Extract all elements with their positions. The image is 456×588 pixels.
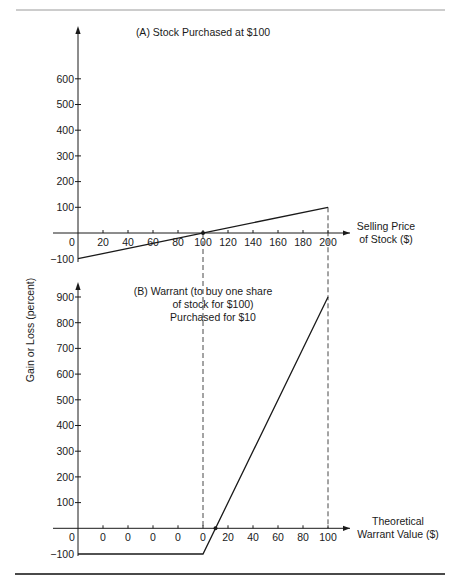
panel-b-x-axis-label-line: Warrant Value ($): [357, 528, 439, 540]
panel-b-y-tick-label: 900: [56, 291, 74, 303]
panel-a-x-axis-label-line: Selling Price: [357, 220, 416, 232]
panel-b-x-tick-label: 20: [222, 531, 234, 543]
panel-a: (A) Stock Purchased at $100 Selling Pric…: [50, 26, 415, 528]
panel-a-x-tick-label: 120: [219, 236, 237, 248]
panel-b-y-tick-label: 500: [56, 394, 74, 406]
panel-a-x-tick-label: 40: [122, 236, 134, 248]
panel-b-x-tick-label: 0: [100, 531, 106, 543]
panel-b-title-line: (B) Warrant (to buy one share: [134, 285, 273, 297]
panel-b-x-tick-label: 40: [247, 531, 259, 543]
panel-b-x-tick-label: 0: [150, 531, 156, 543]
panel-b-y-tick-label: 200: [56, 471, 74, 483]
panel-a-x-tick-label: 180: [294, 236, 312, 248]
panel-b-x-axis-arrow-icon: [343, 526, 350, 531]
panel-a-y-tick-label: 500: [56, 98, 74, 110]
panel-b-x-tick-label: 100: [319, 531, 337, 543]
panel-a-title: (A) Stock Purchased at $100: [136, 26, 270, 38]
panel-a-y-tick-label: 600: [56, 73, 74, 85]
warrant-leverage-figure: Gain or Loss (percent) (A) Stock Purchas…: [0, 0, 456, 588]
panel-b-x-tick-label: 0: [69, 531, 75, 543]
panel-b-y-tick-label: 700: [56, 342, 74, 354]
panel-b-x-tick-label: 80: [297, 531, 309, 543]
panel-a-y-tick-label: 100: [56, 201, 74, 213]
panel-b-y-tick-label: 800: [56, 317, 74, 329]
panel-a-y-tick-label: 200: [56, 175, 74, 187]
panel-a-x-tick-label: 20: [97, 236, 109, 248]
panel-a-y-tick-label: 300: [56, 150, 74, 162]
panel-a-x-tick-label: 0: [69, 236, 75, 248]
panel-b-x-tick-label: 0: [200, 531, 206, 543]
panel-b-x-tick-label: 60: [272, 531, 284, 543]
panel-b-y-tick-label: 300: [56, 445, 74, 457]
panel-a-breakeven-point: [201, 231, 205, 235]
panel-a-y-axis-arrow-icon: [75, 26, 80, 34]
panel-b-y-tick-label: 400: [56, 419, 74, 431]
panel-a-x-tick-label: 140: [244, 236, 262, 248]
panel-b-y-tick-label: 100: [56, 496, 74, 508]
panel-b: (B) Warrant (to buy one share of stock f…: [50, 282, 439, 560]
panel-b-title-line: Purchased for $10: [170, 311, 256, 323]
panel-b-x-tick-label: 0: [125, 531, 131, 543]
panel-b-x-tick-label: 0: [175, 531, 181, 543]
panel-b-y-axis-arrow-icon: [75, 282, 80, 290]
panel-b-y-tick-label: −100: [50, 548, 74, 560]
panel-a-y-tick-label: 400: [56, 124, 74, 136]
panel-a-x-axis-arrow-icon: [343, 230, 350, 235]
panel-b-x-axis-label: Theoretical Warrant Value ($): [357, 515, 439, 540]
panel-a-x-axis-label-line: of Stock ($): [359, 233, 413, 245]
panel-a-y-tick-label: −100: [50, 253, 74, 265]
y-axis-label: Gain or Loss (percent): [24, 278, 36, 382]
panel-b-y-tick-label: 600: [56, 368, 74, 380]
panel-b-x-axis-label-line: Theoretical: [372, 515, 424, 527]
panel-b-title-line: of stock for $100): [172, 298, 253, 310]
panel-a-x-tick-label: 160: [269, 236, 287, 248]
panel-b-breakeven-point: [214, 526, 218, 530]
panel-a-x-axis-label: Selling Price of Stock ($): [357, 220, 416, 245]
